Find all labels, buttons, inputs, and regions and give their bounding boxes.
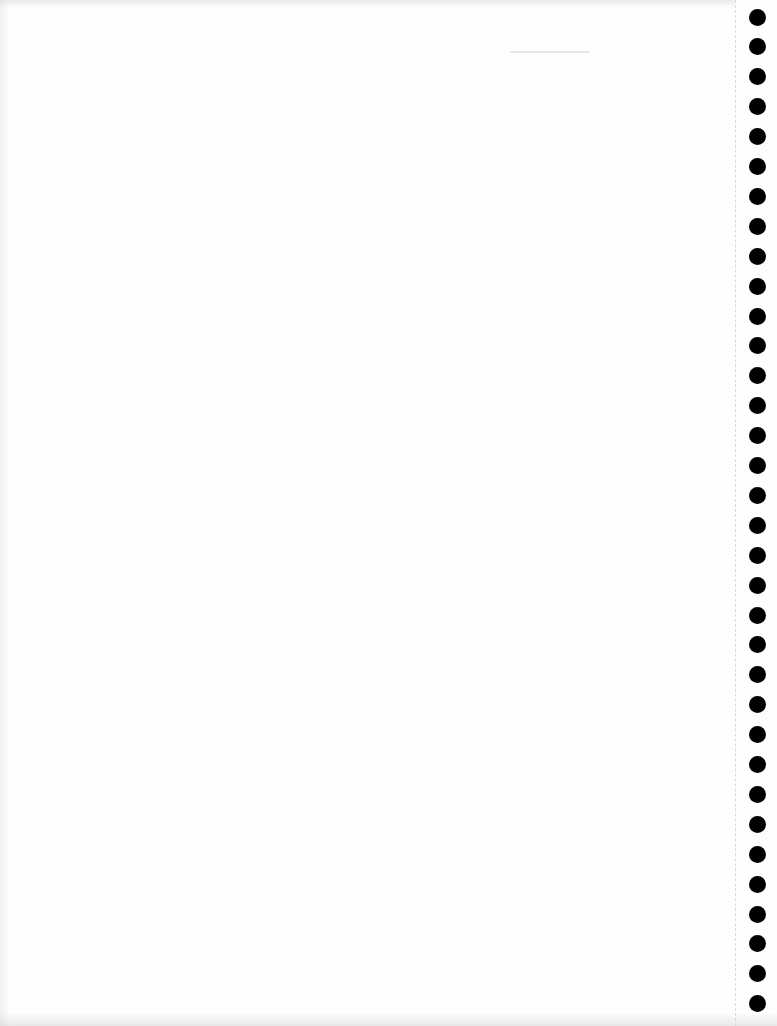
punch-hole [749, 726, 766, 743]
punch-hole [749, 278, 766, 295]
punch-hole [749, 188, 766, 205]
punch-hole [749, 128, 766, 145]
punch-hole [749, 218, 766, 235]
punch-hole [749, 696, 766, 713]
scan-shadow-bottom [0, 1012, 777, 1026]
punch-hole [749, 995, 766, 1012]
tractor-feed-strip [736, 0, 777, 1026]
punch-hole [749, 935, 766, 952]
punch-hole [749, 158, 766, 175]
punch-hole [749, 248, 766, 265]
punch-hole [749, 487, 766, 504]
scan-shadow-left [0, 0, 10, 1026]
punch-hole [749, 427, 766, 444]
punch-hole [749, 906, 766, 923]
punch-hole [749, 876, 766, 893]
punch-hole [749, 786, 766, 803]
punch-hole [749, 577, 766, 594]
paper-sheet [0, 0, 777, 1026]
punch-hole [749, 816, 766, 833]
punch-hole [749, 367, 766, 384]
punch-hole [749, 846, 766, 863]
punch-hole [749, 547, 766, 564]
punch-hole [749, 666, 766, 683]
punch-hole [749, 607, 766, 624]
punch-hole [749, 397, 766, 414]
punch-hole [749, 98, 766, 115]
punch-hole [749, 517, 766, 534]
punch-hole [749, 68, 766, 85]
faint-smudge [510, 51, 590, 53]
punch-hole [749, 756, 766, 773]
scan-shadow-top [0, 0, 735, 8]
punch-hole [749, 965, 766, 982]
punch-hole [749, 9, 766, 26]
punch-hole [749, 636, 766, 653]
punch-hole [749, 308, 766, 325]
punch-hole [749, 337, 766, 354]
punch-hole [749, 38, 766, 55]
punch-hole [749, 457, 766, 474]
